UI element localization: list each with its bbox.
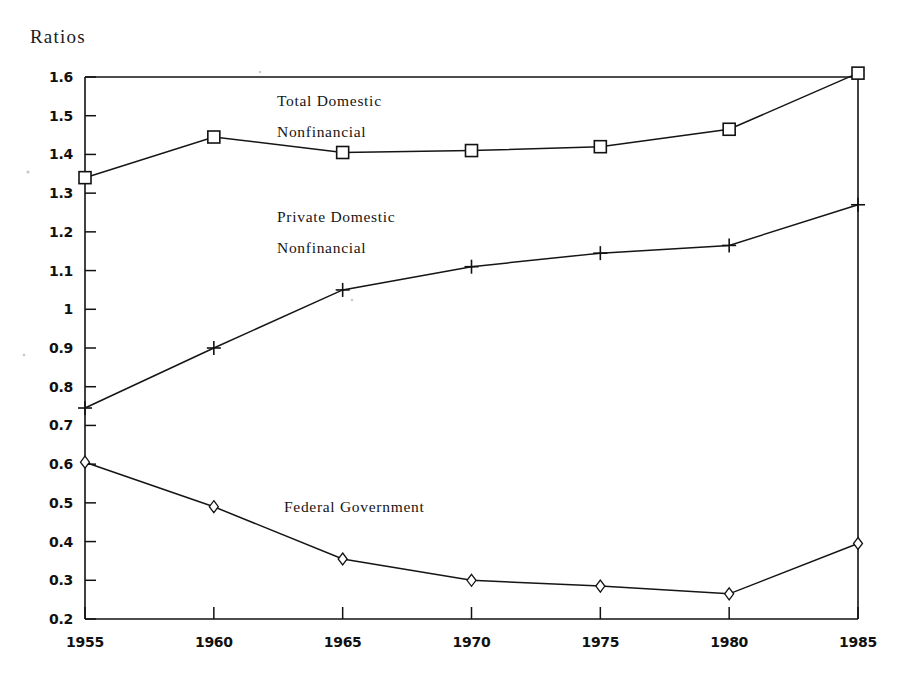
- data-point-diamond-marker: [209, 501, 218, 513]
- series-diamond: [81, 456, 863, 600]
- y-tick-label: 0.7: [49, 417, 73, 433]
- data-point-plus-marker: [336, 283, 350, 297]
- plot-frame: [85, 77, 858, 619]
- series-line: [85, 205, 858, 408]
- y-tick-label: 0.3: [49, 572, 73, 588]
- x-tick-label: 1960: [195, 634, 233, 650]
- annotation-private-domestic-line1: Private Domestic: [277, 208, 395, 225]
- x-tick-label: 1965: [324, 634, 362, 650]
- y-tick-label: 1: [64, 301, 73, 317]
- series-plus: [78, 198, 865, 415]
- y-tick-label: 0.2: [49, 611, 73, 627]
- data-point-plus-marker: [465, 260, 479, 274]
- y-tick-label: 0.9: [49, 340, 73, 356]
- chart-figure: Ratios 0.20.30.40.50.60.70.80.911.11.21.…: [0, 0, 897, 680]
- data-point-diamond-marker: [854, 538, 863, 550]
- y-tick-label: 0.5: [49, 495, 73, 511]
- data-point-square-marker: [79, 172, 91, 184]
- data-point-diamond-marker: [467, 574, 476, 586]
- data-point-plus-marker: [851, 198, 865, 212]
- data-point-diamond-marker: [338, 553, 347, 565]
- x-tick-label: 1955: [66, 634, 104, 650]
- y-tick-label: 0.4: [49, 534, 73, 550]
- data-series-group: [78, 67, 865, 600]
- data-point-square-marker: [723, 123, 735, 135]
- data-point-square-marker: [337, 146, 349, 158]
- x-tick-label: 1970: [453, 634, 491, 650]
- annotation-private-domestic-line2: Nonfinancial: [277, 239, 366, 256]
- y-tick-label: 0.8: [49, 379, 73, 395]
- series-annotations: Total Domestic Nonfinancial Private Dome…: [277, 92, 424, 515]
- y-tick-label: 1.4: [49, 146, 73, 162]
- data-point-diamond-marker: [81, 456, 90, 468]
- data-point-diamond-marker: [725, 588, 734, 600]
- y-tick-label: 1.6: [49, 69, 73, 85]
- y-tick-label: 1.2: [49, 224, 73, 240]
- x-tick-label: 1985: [839, 634, 877, 650]
- series-line: [85, 73, 858, 178]
- data-point-plus-marker: [207, 341, 221, 355]
- x-axis: 1955196019651970197519801985: [66, 607, 877, 650]
- data-point-plus-marker: [78, 401, 92, 415]
- series-square: [79, 67, 864, 184]
- y-tick-label: 1.1: [49, 263, 73, 279]
- data-point-square-marker: [208, 131, 220, 143]
- annotation-total-domestic-line2: Nonfinancial: [277, 123, 366, 140]
- line-chart-plot: 0.20.30.40.50.60.70.80.911.11.21.31.41.5…: [0, 0, 897, 680]
- data-point-plus-marker: [593, 246, 607, 260]
- annotation-total-domestic-line1: Total Domestic: [277, 92, 382, 109]
- annotation-federal-government: Federal Government: [284, 498, 424, 515]
- data-point-square-marker: [594, 141, 606, 153]
- y-tick-label: 1.3: [49, 185, 73, 201]
- data-point-square-marker: [852, 67, 864, 79]
- data-point-plus-marker: [722, 238, 736, 252]
- x-tick-label: 1980: [710, 634, 748, 650]
- x-tick-label: 1975: [581, 634, 619, 650]
- data-point-diamond-marker: [596, 580, 605, 592]
- data-point-square-marker: [466, 145, 478, 157]
- y-tick-label: 1.5: [49, 108, 73, 124]
- y-tick-label: 0.6: [49, 456, 73, 472]
- y-axis: 0.20.30.40.50.60.70.80.911.11.21.31.41.5…: [49, 69, 96, 627]
